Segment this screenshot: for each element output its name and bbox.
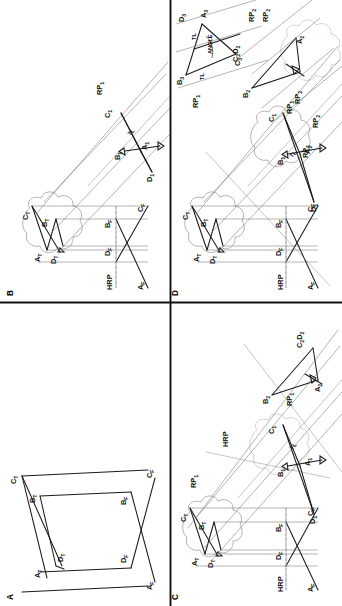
svg-text:DT: DT [208, 255, 218, 264]
label-angle-d: ANGLE [207, 34, 213, 54]
label-ct-sub: T [13, 475, 19, 479]
panel-c: CT BT AT DT BF DF CF AF HRP [171, 330, 342, 600]
label-rp1-d1: RP [191, 98, 200, 108]
svg-text:B1: B1 [113, 152, 123, 160]
svg-text:BT: BT [28, 494, 38, 503]
panel-c-rp1-band [188, 330, 342, 560]
svg-text:RP1: RP1 [189, 475, 199, 488]
svg-text:DT: DT [56, 553, 66, 562]
svg-text:B3: B3 [175, 77, 185, 85]
panel-b: CT BT AT DT BF DF CF AF HRP [6, 62, 170, 296]
panel-b-front-view [116, 206, 148, 288]
svg-text:A2: A2 [295, 36, 305, 44]
label-bf-sub: F [123, 496, 129, 499]
label-hrp-b: HRP [105, 274, 114, 290]
svg-text:RP2: RP2 [293, 91, 303, 104]
svg-text:RP1: RP1 [191, 95, 201, 108]
svg-text:AF: AF [306, 281, 316, 290]
label-hrp-c2: HRP [221, 431, 230, 447]
svg-text:RP2: RP2 [261, 9, 271, 22]
svg-text:AT: AT [33, 569, 43, 578]
label-hrp-c1: HRP [276, 576, 285, 592]
svg-text:CT: CT [9, 475, 19, 484]
svg-text:RP1: RP1 [95, 82, 105, 95]
svg-text:A1: A1 [140, 142, 150, 150]
svg-text:BT: BT [40, 218, 50, 227]
svg-text:DF: DF [119, 554, 129, 563]
svg-text:DF: DF [274, 551, 284, 560]
label-df-sub: F [123, 554, 129, 557]
panel-a-caption: A [6, 594, 15, 600]
svg-text:AT: AT [33, 253, 43, 262]
svg-text:D1: D1 [145, 174, 155, 182]
label-at-sub: T [37, 569, 43, 573]
label-rp1-d2: RP [285, 104, 294, 114]
label-tl-d2: TL [191, 33, 197, 40]
svg-text:C1: C1 [267, 114, 277, 122]
svg-text:CF: CF [145, 469, 155, 478]
svg-text:AF: AF [306, 583, 316, 592]
svg-text:RP2: RP2 [247, 9, 257, 22]
svg-text:AF: AF [145, 581, 155, 590]
panel-b-labels: CT BT AT DT BF DF CF AF HRP [6, 82, 155, 296]
panel-a-front-view [131, 478, 155, 582]
svg-text:BF: BF [274, 219, 284, 228]
svg-text:BF: BF [274, 523, 284, 532]
svg-text:B1: B1 [276, 157, 286, 165]
svg-text:DT: DT [206, 559, 216, 568]
label-rp1-c1: RP [189, 478, 198, 488]
svg-text:A3: A3 [199, 10, 209, 18]
svg-text:CF: CF [306, 507, 316, 516]
panel-b-blob [23, 192, 82, 253]
svg-text:A2: A2 [313, 384, 323, 392]
label-bt-sub: T [32, 494, 38, 498]
svg-text:BF: BF [119, 496, 129, 505]
svg-text:C1: C1 [103, 110, 113, 118]
svg-text:A1: A1 [303, 458, 313, 466]
panel-c-projectors [190, 508, 318, 566]
label-af-sub: F [149, 581, 155, 584]
svg-text:BF: BF [103, 219, 113, 228]
label-rp1-d3: RP [301, 148, 310, 158]
panel-d-caption: D [171, 290, 180, 296]
label-tl-d3: TL [199, 73, 205, 80]
label-dt-sub: T [60, 553, 66, 557]
svg-text:B2: B2 [241, 90, 251, 98]
svg-text:C1: C1 [267, 426, 277, 434]
svg-text:AT: AT [192, 253, 202, 262]
svg-text:DF: DF [274, 247, 284, 256]
panel-d-front-view [286, 206, 318, 288]
label-rp2-d3: RP [293, 94, 302, 104]
svg-text:DF: DF [103, 247, 113, 256]
svg-text:C2D2: C2D2 [295, 331, 305, 348]
label-cf-sub: F [149, 469, 155, 472]
svg-text:D3: D3 [177, 14, 187, 22]
panel-c-top-view [190, 508, 222, 556]
panel-b-caption: B [6, 290, 15, 296]
svg-text:DT: DT [49, 255, 59, 264]
label-hrp-d: HRP [276, 274, 285, 290]
panel-d: CT BT AT DT BF DF CF AF HRP [171, 0, 342, 296]
figure-sheet: CT BT AT DT BF DF CF AF A [0, 0, 342, 606]
panel-dividers [0, 0, 342, 606]
panel-c-caption: C [171, 594, 180, 600]
svg-text:RP1: RP1 [301, 145, 311, 158]
svg-text:RP2: RP2 [311, 115, 321, 128]
svg-text:RP1: RP1 [285, 393, 295, 406]
svg-text:CT: CT [181, 211, 191, 220]
svg-text:CT: CT [21, 211, 31, 220]
svg-text:B1: B1 [276, 469, 286, 477]
svg-text:CT: CT [179, 513, 189, 522]
label-rp1-c2: RP [285, 396, 294, 406]
svg-text:CF: CF [136, 203, 146, 212]
panel-d-projectors [192, 206, 318, 262]
label-rp2-d1: RP [247, 12, 256, 22]
label-rp1-b: RP [95, 85, 104, 95]
panel-a: CT BT AT DT BF DF CF AF A [6, 469, 155, 600]
svg-text:AF: AF [136, 281, 146, 290]
panel-c-blob [183, 414, 309, 557]
drawing-canvas: CT BT AT DT BF DF CF AF A [0, 0, 342, 606]
svg-text:AT: AT [190, 557, 200, 566]
svg-text:B2: B2 [261, 396, 271, 404]
label-rp2-d2: RP [261, 12, 270, 22]
